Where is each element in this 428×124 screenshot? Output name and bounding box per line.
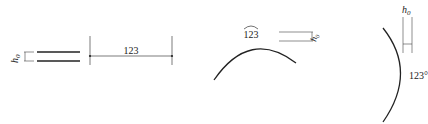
figure-linear: h0 123 [9, 36, 173, 65]
dimension-value-angular: 123° [409, 70, 428, 81]
dimension-value-linear: 123 [124, 45, 139, 56]
figure-angular: h0 123° [383, 4, 428, 122]
dim-end-dot-right [171, 55, 173, 57]
h0-label-linear: h0 [9, 54, 22, 63]
h0-label-angular: h0 [402, 4, 411, 17]
angular-arc-curve [383, 28, 401, 122]
dimension-diagram: h0 123 123 h0 h0 [0, 0, 428, 124]
figure-arc: 123 h0 [214, 26, 321, 80]
dimension-value-arc: 123 [244, 29, 259, 40]
dim-end-dot-left [89, 55, 91, 57]
arc-curve [214, 49, 296, 80]
h0-label-arc: h0 [308, 33, 321, 43]
